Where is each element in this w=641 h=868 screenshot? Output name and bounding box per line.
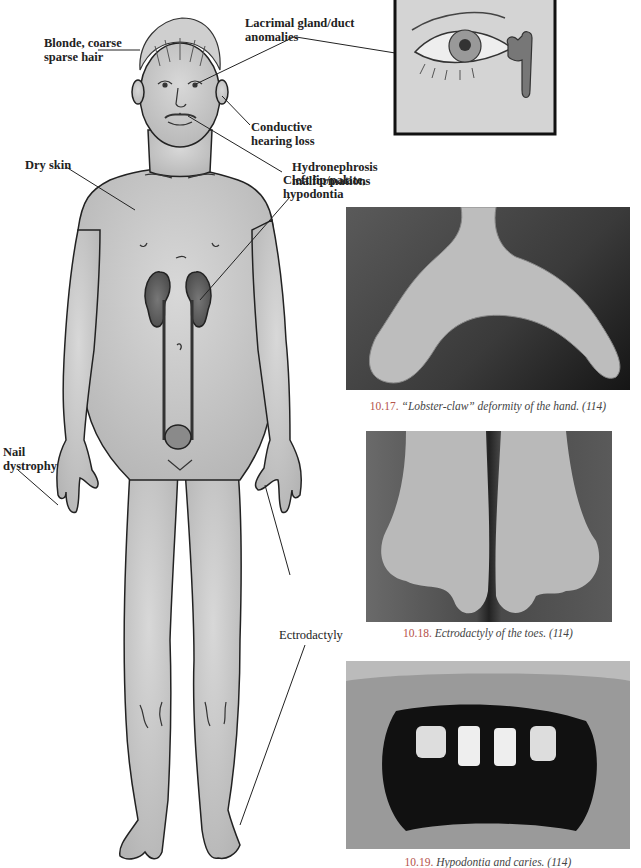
tooth [458,726,480,766]
label-ectrodactyly: Ectrodactyly [279,628,343,642]
label-hydronephrosis: Hydronephrosis malformations [292,160,378,188]
label-hearing: Conductive hearing loss [251,120,315,148]
label-nail-line1: Nail [3,445,57,459]
tooth [416,726,446,758]
label-hydronephrosis-line2: malformations [292,174,378,188]
caption-text: Hypodontia and caries. (114) [436,856,571,868]
label-hearing-line2: hearing loss [251,134,315,148]
caption-photo-3: 10.19. Hypodontia and caries. (114) [346,856,630,868]
photo-hypodontia-teeth [346,661,630,849]
caption-number: 10.17. [370,400,399,412]
photo-ectrodactyly-toes [366,431,612,622]
label-lacrimal-line2: anomalies [245,30,354,44]
caption-text: “Lobster-claw” deformity of the hand. (1… [401,400,606,412]
pupil [459,39,471,51]
label-hydronephrosis-line1: Hydronephrosis [292,160,378,174]
label-hair: Blonde, coarse sparse hair [44,36,122,64]
label-hair-line1: Blonde, coarse [44,36,122,50]
label-cleft-line2: hypodontia [283,187,366,201]
photo-lobster-claw-hand [346,207,630,390]
caption-number: 10.19. [405,856,434,868]
caption-photo-2: 10.18. Ectrodactyly of the toes. (114) [346,627,630,639]
label-lacrimal-line1: Lacrimal gland/duct [245,16,354,30]
caption-number: 10.18. [403,627,432,639]
tooth [530,726,556,761]
label-hair-line2: sparse hair [44,50,122,64]
label-lacrimal: Lacrimal gland/duct anomalies [245,16,354,44]
label-nail: Nail dystrophy [3,445,57,473]
caption-text: Ectrodactyly of the toes. (114) [435,627,573,639]
tooth [494,728,516,766]
label-dry-skin: Dry skin [25,158,71,172]
caption-photo-1: 10.17. “Lobster-claw” deformity of the h… [346,400,630,412]
label-nail-line2: dystrophy [3,459,57,473]
label-hearing-line1: Conductive [251,120,315,134]
